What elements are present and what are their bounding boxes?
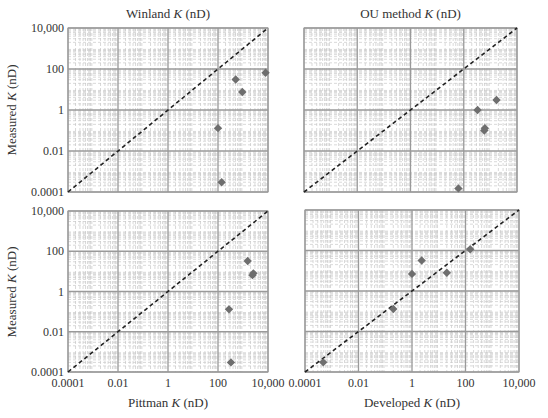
x-tick-label: 1 bbox=[165, 376, 171, 390]
k-symbol: K bbox=[174, 6, 183, 21]
panel-1 bbox=[304, 28, 517, 193]
panel-3: 0.00010.01110010,000 bbox=[289, 210, 536, 390]
y-tick-label: 0.01 bbox=[43, 144, 64, 158]
diamond-marker bbox=[227, 358, 235, 366]
y-tick-label: 100 bbox=[46, 62, 64, 76]
ylabel-top: Measured K (nD) bbox=[4, 50, 20, 170]
x-tick-label: 0.01 bbox=[348, 376, 369, 390]
diamond-marker bbox=[492, 96, 500, 104]
figure-canvas: 0.00010.01110010,0000.00010.01110010,000… bbox=[0, 0, 548, 418]
diamond-marker bbox=[225, 305, 233, 313]
y-tick-label: 10,000 bbox=[31, 21, 64, 35]
panel-0: 0.00010.01110010,000 bbox=[31, 21, 270, 199]
x-tick-label: 100 bbox=[209, 376, 227, 390]
diamond-marker bbox=[231, 75, 239, 83]
ylabel-bottom: Measured K (nD) bbox=[4, 232, 20, 352]
y-tick-label: 10,000 bbox=[31, 204, 64, 218]
y-tick-label: 0.0001 bbox=[31, 185, 64, 199]
xlabel-developed: Developed K (nD) bbox=[305, 395, 519, 411]
y-tick-label: 0.01 bbox=[43, 325, 64, 339]
xlabel-pittman: Pittman K (nD) bbox=[68, 395, 268, 411]
k-symbol: K bbox=[4, 92, 19, 101]
x-tick-label: 100 bbox=[457, 376, 475, 390]
k-symbol: K bbox=[424, 6, 433, 21]
x-tick-label: 0.0001 bbox=[289, 376, 322, 390]
diamond-marker bbox=[443, 269, 451, 277]
x-tick-label: 10,000 bbox=[252, 376, 285, 390]
x-tick-label: 0.0001 bbox=[52, 376, 85, 390]
x-tick-label: 10,000 bbox=[503, 376, 536, 390]
k-symbol: K bbox=[172, 395, 181, 410]
data-points bbox=[319, 245, 474, 366]
y-tick-label: 1 bbox=[58, 285, 64, 299]
panel-title-winland: Winland K (nD) bbox=[68, 6, 268, 22]
y-tick-label: 100 bbox=[46, 244, 64, 258]
k-symbol: K bbox=[424, 395, 433, 410]
y-tick-label: 1 bbox=[58, 103, 64, 117]
x-tick-label: 1 bbox=[409, 376, 415, 390]
panel-title-ou-method: OU method K (nD) bbox=[304, 6, 517, 22]
k-symbol: K bbox=[4, 274, 19, 283]
diamond-marker bbox=[217, 178, 225, 186]
panel-2: 0.00010.01110010,0000.00010.01110010,000 bbox=[31, 204, 285, 390]
x-tick-label: 0.01 bbox=[108, 376, 129, 390]
